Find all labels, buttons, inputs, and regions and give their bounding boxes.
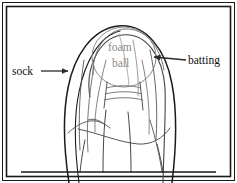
- figure-container: sock batting foam ball: [0, 0, 237, 183]
- label-foam: foam: [108, 41, 132, 53]
- label-ball: ball: [112, 57, 129, 69]
- sock-doll-diagram: sock batting foam ball: [0, 0, 237, 183]
- label-batting: batting: [188, 54, 220, 67]
- label-sock: sock: [12, 65, 33, 77]
